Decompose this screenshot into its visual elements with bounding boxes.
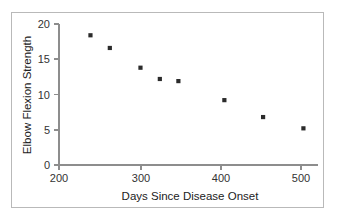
y-axis-group: 20 15 10 5 0 Elbow Flexion Strength xyxy=(21,18,59,171)
x-axis-title: Days Since Disease Onset xyxy=(122,190,260,202)
data-point xyxy=(301,126,305,130)
x-axis-group: 200 300 400 500 Days Since Disease Onset xyxy=(50,165,318,202)
plot-canvas: 20 15 10 5 0 Elbow Flexion Strength 200 … xyxy=(0,0,337,221)
y-tick-label-10: 10 xyxy=(38,89,50,101)
data-point xyxy=(88,33,92,37)
x-tick-label-300: 300 xyxy=(132,172,150,184)
data-point xyxy=(261,115,265,119)
y-tick-label-5: 5 xyxy=(44,124,50,136)
x-tick-label-400: 400 xyxy=(212,172,230,184)
y-axis-title: Elbow Flexion Strength xyxy=(21,36,33,154)
data-point xyxy=(108,46,112,50)
x-tick-marks xyxy=(59,165,301,170)
x-tick-label-200: 200 xyxy=(50,172,68,184)
data-point xyxy=(138,66,142,70)
data-point xyxy=(222,98,226,102)
scatter-chart-figure: 20 15 10 5 0 Elbow Flexion Strength 200 … xyxy=(0,0,337,221)
y-tick-label-0: 0 xyxy=(44,159,50,171)
data-point-group xyxy=(88,33,305,130)
data-point xyxy=(158,77,162,81)
data-point xyxy=(176,79,180,83)
y-tick-label-20: 20 xyxy=(38,18,50,30)
y-tick-marks xyxy=(54,24,59,165)
y-tick-label-15: 15 xyxy=(38,53,50,65)
x-tick-label-500: 500 xyxy=(292,172,310,184)
